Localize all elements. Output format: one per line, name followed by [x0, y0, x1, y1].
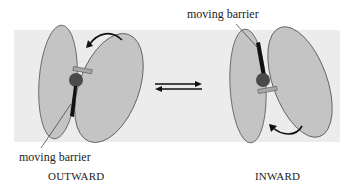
inward-caption: INWARD: [255, 170, 300, 182]
gate-ball: [69, 73, 83, 87]
right-barrier-label: moving barrier: [187, 7, 259, 22]
left-barrier-label: moving barrier: [19, 150, 91, 165]
gate-ball: [256, 73, 270, 87]
inward-transporter: [227, 18, 345, 145]
outward-transporter: [35, 24, 157, 152]
equilibrium-arrows: [155, 81, 202, 92]
outward-caption: OUTWARD: [48, 170, 104, 182]
